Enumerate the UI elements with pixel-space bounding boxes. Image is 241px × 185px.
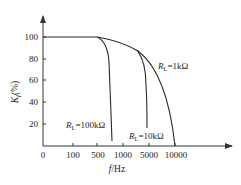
curve-rl-10k	[137, 50, 147, 128]
y-tick-label: 20	[29, 119, 39, 129]
y-tick-label: 60	[29, 75, 39, 85]
label-rl-1k: RL=1kΩ	[157, 61, 189, 72]
y-axis-title: Kf(%)	[10, 81, 22, 105]
y-tick-labels: 20 40 60 80 100	[25, 32, 39, 129]
y-tick-label: 80	[29, 54, 39, 64]
frequency-response-chart: 20 40 60 80 100 0 100 500 1000 5000 1000…	[0, 0, 241, 185]
x-tick-label: 1000	[114, 150, 133, 160]
x-tick-labels: 0 100 500 1000 5000 10000	[41, 150, 188, 160]
y-tick-label: 40	[29, 97, 39, 107]
x-tick-label: 10000	[165, 150, 188, 160]
curve-rl-1k	[97, 37, 175, 146]
x-tick-label: 100	[66, 150, 80, 160]
x-tick-label: 5000	[140, 150, 159, 160]
y-tick-label: 100	[25, 32, 39, 42]
x-tick-label: 500	[91, 150, 105, 160]
x-axis-title: f/Hz	[109, 164, 125, 174]
label-rl-10k: RL=10kΩ	[128, 131, 164, 142]
label-rl-100k: RL=100kΩ	[65, 120, 106, 131]
x-tick-label: 0	[41, 150, 46, 160]
